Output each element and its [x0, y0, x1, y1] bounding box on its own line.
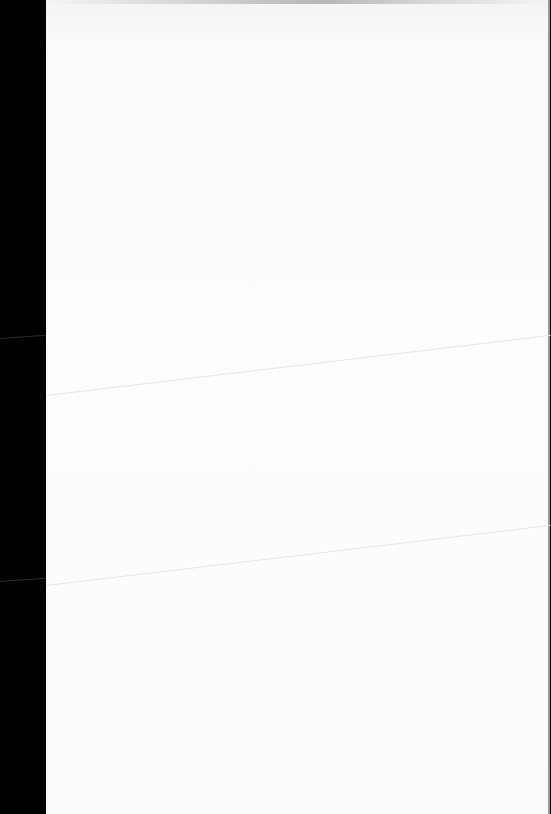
page-top-shadow — [46, 0, 548, 4]
fold-line — [0, 578, 46, 582]
black-margin-strip — [0, 0, 46, 814]
fold-crease — [46, 525, 551, 586]
blank-page — [46, 0, 550, 814]
fold-crease — [46, 335, 551, 396]
fold-line — [0, 335, 46, 339]
